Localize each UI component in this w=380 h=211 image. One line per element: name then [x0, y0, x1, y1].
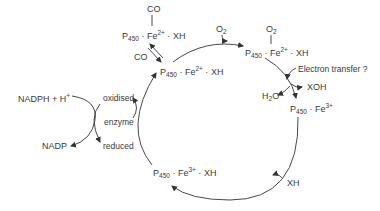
arc-substrate-binding	[172, 117, 298, 200]
electron-transfer-label: Electron transfer ?	[298, 64, 367, 74]
xoh-product-label: XOH	[307, 82, 327, 92]
xh-substrate-label: XH	[287, 178, 300, 188]
node-fe3: P450 · Fe3+	[290, 101, 333, 117]
co-release-label: CO	[134, 52, 148, 62]
node-fe3-xh: P450 · Fe3+ · XH	[153, 165, 216, 181]
o2-input-label: O2	[216, 24, 227, 37]
node-o2-complex: P450 · Fe2+ · XH	[245, 45, 308, 61]
nadph-label: NADPH + H+	[18, 91, 70, 104]
enzyme-oxidised-label: oxidised	[103, 93, 134, 103]
enzyme-label: enzyme	[104, 117, 134, 127]
nadp-label: NADP	[42, 141, 67, 151]
arc-reduction	[138, 73, 156, 165]
node-co-complex: P450 · Fe2+ · XH	[122, 28, 185, 44]
enzyme-reduced-label: reduced	[103, 141, 134, 151]
node-fe2-xh: P450 · Fe2+ · XH	[160, 64, 223, 80]
h2o-product-label: H2O	[262, 91, 279, 104]
co-ligand-label: CO	[147, 4, 161, 14]
arc-o2-binding	[173, 44, 243, 62]
o2-ligand-label: O2	[266, 24, 277, 37]
